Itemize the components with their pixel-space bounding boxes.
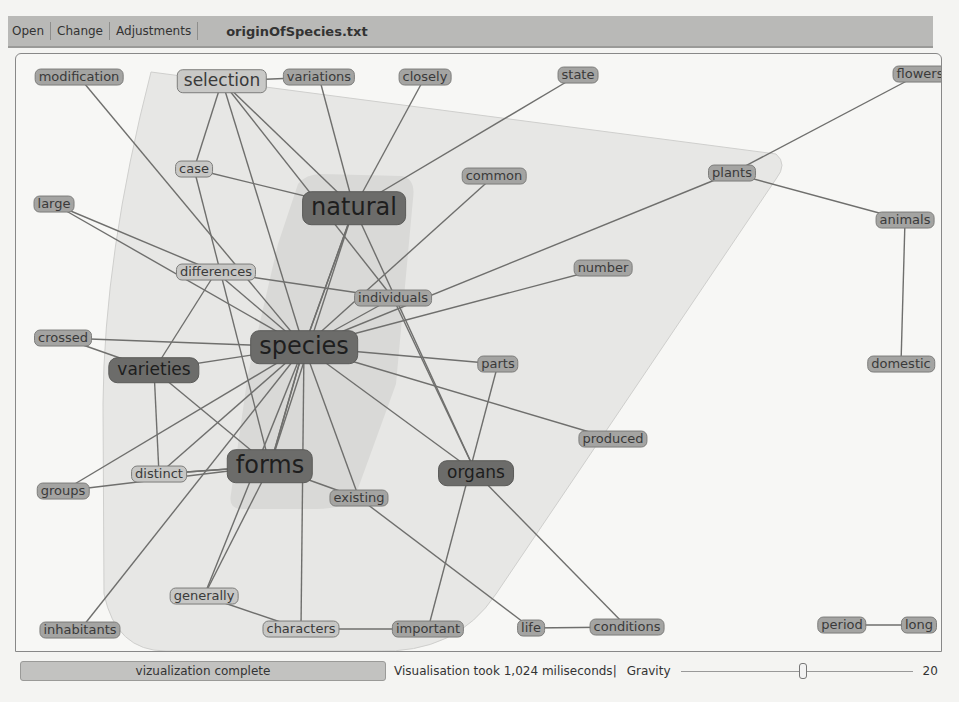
- node-generally[interactable]: generally: [170, 588, 239, 605]
- graph-canvas[interactable]: modificationselectionvariationscloselyst…: [15, 53, 942, 652]
- status-bar: vizualization complete Visualisation too…: [20, 661, 959, 681]
- node-species[interactable]: species: [250, 330, 358, 364]
- gravity-slider[interactable]: [681, 662, 913, 680]
- node-inhabitants[interactable]: inhabitants: [39, 622, 120, 639]
- edge-animals-domestic: [901, 220, 905, 364]
- node-crossed[interactable]: crossed: [34, 330, 92, 347]
- node-varieties[interactable]: varieties: [108, 357, 199, 383]
- open-menu-button[interactable]: Open: [8, 22, 51, 40]
- node-groups[interactable]: groups: [37, 483, 90, 500]
- node-domestic[interactable]: domestic: [867, 356, 935, 373]
- node-state[interactable]: state: [558, 67, 599, 84]
- timing-text: Visualisation took 1,024 miliseconds|: [394, 664, 617, 678]
- slider-track: [681, 671, 913, 672]
- change-menu-button[interactable]: Change: [51, 22, 110, 40]
- node-closely[interactable]: closely: [399, 69, 452, 86]
- progress-bar: vizualization complete: [20, 661, 386, 681]
- graph-edges-layer: [16, 54, 941, 651]
- node-parts[interactable]: parts: [477, 356, 518, 373]
- node-flowers[interactable]: flowers: [893, 66, 942, 83]
- node-natural[interactable]: natural: [302, 191, 406, 225]
- node-variations[interactable]: variations: [283, 69, 355, 86]
- node-large[interactable]: large: [34, 196, 75, 213]
- node-number[interactable]: number: [574, 260, 633, 277]
- node-long[interactable]: long: [901, 617, 937, 634]
- node-individuals[interactable]: individuals: [354, 290, 432, 307]
- node-animals[interactable]: animals: [876, 212, 935, 229]
- node-common[interactable]: common: [462, 168, 527, 185]
- slider-thumb[interactable]: [799, 663, 807, 679]
- edge-flowers-plants: [732, 74, 920, 173]
- gravity-label: Gravity: [627, 664, 671, 678]
- node-life[interactable]: life: [517, 620, 545, 637]
- node-plants[interactable]: plants: [708, 165, 756, 182]
- node-organs[interactable]: organs: [438, 460, 514, 486]
- adjustments-menu-button[interactable]: Adjustments: [110, 22, 198, 40]
- node-period[interactable]: period: [817, 617, 866, 634]
- gravity-value: 20: [923, 664, 938, 678]
- file-title: originOfSpecies.txt: [226, 24, 367, 39]
- node-modification[interactable]: modification: [35, 69, 124, 86]
- node-case[interactable]: case: [175, 161, 213, 178]
- node-forms[interactable]: forms: [227, 449, 313, 483]
- node-produced[interactable]: produced: [578, 431, 647, 448]
- toolbar: Open Change Adjustments originOfSpecies.…: [8, 16, 933, 48]
- node-distinct[interactable]: distinct: [131, 466, 187, 483]
- node-conditions[interactable]: conditions: [590, 619, 665, 636]
- node-important[interactable]: important: [392, 621, 464, 638]
- node-characters[interactable]: characters: [262, 621, 339, 638]
- node-selection[interactable]: selection: [177, 69, 267, 93]
- node-existing[interactable]: existing: [329, 490, 388, 507]
- node-differences[interactable]: differences: [176, 264, 256, 281]
